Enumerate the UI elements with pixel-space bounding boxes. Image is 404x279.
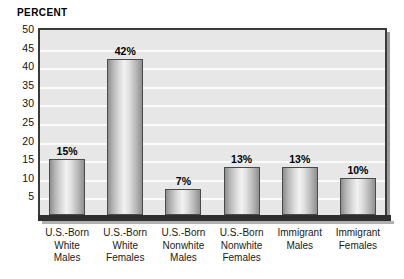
x-axis-category-label-line: Females [96, 252, 154, 265]
x-axis-category-label-line: U.S.-Born [213, 227, 271, 240]
x-axis-category-label-line: Males [38, 252, 96, 265]
y-axis-tick-label: 5 [0, 191, 34, 202]
bar-value-label: 7% [153, 175, 213, 187]
x-axis-category-label-line: U.S.-Born [154, 227, 212, 240]
y-axis-tick-label: 20 [0, 136, 34, 147]
bar [340, 178, 376, 215]
x-axis-category-label-line: White [96, 240, 154, 253]
bar [165, 189, 201, 215]
x-axis-category-label: U.S.-BornWhiteFemales [96, 227, 154, 265]
bars-layer: 15%42%7%13%13%10% [38, 28, 387, 219]
x-axis-category-label: U.S.-BornWhiteMales [38, 227, 96, 265]
x-axis-category-label: U.S.-BornNonwhiteMales [154, 227, 212, 265]
x-axis-category-label-line: Immigrant [329, 227, 387, 240]
y-axis-tick-label: 10 [0, 173, 34, 184]
bar [107, 59, 143, 215]
y-axis-tick-label: 35 [0, 80, 34, 91]
y-axis-tick-label: 30 [0, 98, 34, 109]
x-axis-category-label-line: Nonwhite [213, 240, 271, 253]
x-axis-category-label-line: Males [154, 252, 212, 265]
x-axis-category-label: ImmigrantMales [271, 227, 329, 252]
bar [49, 159, 85, 215]
y-axis-tick-label: 15 [0, 154, 34, 165]
y-axis-tick-label: 40 [0, 61, 34, 72]
bar-chart: PERCENT 5045403530252015105 15%42%7%13%1… [0, 0, 404, 279]
x-axis-category-label-line: U.S.-Born [96, 227, 154, 240]
x-axis-category-label-line: White [38, 240, 96, 253]
x-axis-category-label: ImmigrantFemales [329, 227, 387, 252]
x-axis-category-label-line: Females [213, 252, 271, 265]
bar [282, 167, 318, 215]
bar-value-label: 10% [328, 164, 388, 176]
bar-value-label: 13% [212, 153, 272, 165]
x-axis-category-label-line: U.S.-Born [38, 227, 96, 240]
x-axis-baseline [38, 215, 391, 221]
x-axis-category-label-line: Immigrant [271, 227, 329, 240]
y-axis-tick-label: 45 [0, 43, 34, 54]
x-axis-category-label-line: Females [329, 240, 387, 253]
y-axis-tick-label: 25 [0, 117, 34, 128]
y-axis-tick-labels: 5045403530252015105 [0, 0, 34, 279]
bar [224, 167, 260, 215]
bar-value-label: 42% [95, 45, 155, 57]
x-axis-category-label: U.S.-BornNonwhiteFemales [213, 227, 271, 265]
x-axis-category-label-line: Males [271, 240, 329, 253]
x-axis-category-labels: U.S.-BornWhiteMalesU.S.-BornWhiteFemales… [38, 227, 387, 277]
x-axis-baseline-shadow [42, 221, 394, 224]
bar-value-label: 13% [270, 153, 330, 165]
y-axis-tick-label: 50 [0, 24, 34, 35]
bar-value-label: 15% [37, 145, 97, 157]
x-axis-category-label-line: Nonwhite [154, 240, 212, 253]
